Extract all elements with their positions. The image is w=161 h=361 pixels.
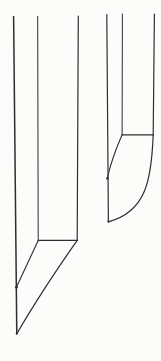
small-blade-spine-line — [107, 15, 109, 222]
illustration-page — [0, 0, 161, 361]
large-blade-tip-dot — [16, 332, 18, 334]
small-blade-inner-bevel-line — [107, 135, 122, 179]
large-blade-left — [14, 16, 79, 335]
small-blade-right — [106, 14, 154, 222]
large-blade-joint-dot — [15, 286, 18, 289]
small-blade-joint-dot — [106, 177, 108, 179]
small-blade-outer-face-line — [153, 14, 154, 135]
large-blade-outer-face-line — [77, 16, 78, 240]
small-blade-tip-dot — [107, 220, 109, 222]
large-blade-edge-curve — [17, 240, 77, 333]
large-blade-inner-face-line — [38, 17, 39, 241]
small-blade-edge-curve — [108, 135, 153, 222]
large-blade-inner-bevel-line — [16, 240, 38, 287]
blade-illustration-svg — [0, 0, 161, 361]
